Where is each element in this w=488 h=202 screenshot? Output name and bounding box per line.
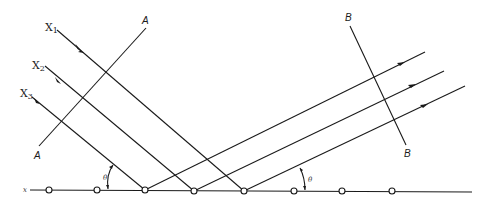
wavefront-a: [39, 28, 146, 146]
label-b-bottom: B: [404, 148, 411, 159]
atom: [291, 188, 297, 194]
label-a-top: A: [141, 15, 149, 26]
label-b-top: B: [345, 12, 352, 23]
arrow-icon: [34, 98, 40, 104]
atom: [339, 188, 345, 194]
diffraction-diagram: θ θ X1 X2 X3 A A B B x: [0, 0, 488, 202]
atom: [241, 188, 247, 194]
atom: [142, 187, 148, 193]
label-x1: X1: [45, 21, 58, 35]
atom: [191, 188, 197, 194]
label-a-bottom: A: [33, 150, 41, 161]
arrow-icon: [76, 44, 82, 51]
label-x3: X3: [20, 87, 33, 101]
atom: [94, 187, 100, 193]
incident-ray-x1: [57, 30, 244, 191]
diffracted-ray-3: [244, 86, 465, 191]
incident-ray-x3: [32, 97, 145, 190]
label-x2: X2: [32, 59, 45, 73]
atom: [389, 188, 395, 194]
atom: [46, 187, 52, 193]
angle-label-diffracted: θ: [308, 176, 313, 184]
diffracted-ray-2: [194, 71, 444, 191]
row-label: x: [23, 186, 27, 194]
diffracted-ray-1: [145, 52, 425, 190]
